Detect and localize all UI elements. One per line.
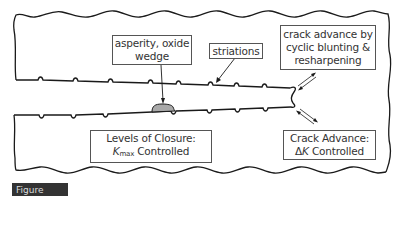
crack-advance-mechanism-label-box: crack advance by cyclic blunting & resha… [280,25,376,70]
tip-upper-double-arrow [298,73,316,91]
striations-label-box: striations [209,43,263,59]
closure-controlled-text: Controlled [134,145,189,157]
crack-advance-dk-label-box: Crack Advance: ΔK Controlled [283,130,376,160]
dk-controlled-text: Controlled [309,145,364,157]
crack-advance-dk-line2: ΔK Controlled [295,145,364,158]
upper-crack-face [16,77,295,107]
crack-advance-mech-line3: resharpening [294,54,361,67]
figure-label-bar: Figure 10.15 [12,183,68,196]
k-symbol: K [302,145,309,157]
closure-label-line1: Levels of Closure: [106,132,195,145]
asperity-arrow [161,65,165,104]
asperity-label-line1: asperity, oxide [115,37,190,50]
k-subscript-max: max [119,150,134,158]
striations-arrow [216,58,235,83]
crack-advance-dk-line1: Crack Advance: [290,132,369,145]
asperity-label-line2: wedge [135,50,169,63]
closure-label-line2: Kmax Controlled [113,145,189,161]
asperity-label-box: asperity, oxide wedge [112,35,192,65]
crack-advance-mech-line1: crack advance by [283,28,372,41]
asperity-wedge [152,104,175,112]
tip-lower-double-arrow [296,109,318,124]
crack-advance-mech-line2: cyclic blunting & [286,41,370,54]
striations-label-line1: striations [213,45,260,58]
closure-label-box: Levels of Closure: Kmax Controlled [90,130,212,163]
